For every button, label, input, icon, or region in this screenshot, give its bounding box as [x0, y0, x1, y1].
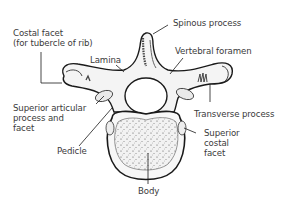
label-pedicle: Pedicle	[57, 146, 87, 156]
label-superior-costal-facet: Superior costal facet	[204, 128, 240, 158]
vertebral-body	[106, 111, 186, 179]
label-costal-facet: Costal facet (for tubercle of rib)	[13, 28, 93, 48]
label-body: Body	[138, 186, 159, 196]
label-transverse-process: Transverse process	[194, 109, 274, 119]
label-lamina: Lamina	[90, 55, 121, 65]
label-superior-articular-process: Superior articular process and facet	[13, 103, 86, 133]
label-vertebral-foramen: Vertebral foramen	[175, 46, 252, 56]
label-spinous-process: Spinous process	[173, 18, 241, 28]
vertebra-diagram: Costal facet (for tubercle of rib) Lamin…	[0, 0, 285, 208]
vertebral-foramen	[125, 78, 167, 114]
